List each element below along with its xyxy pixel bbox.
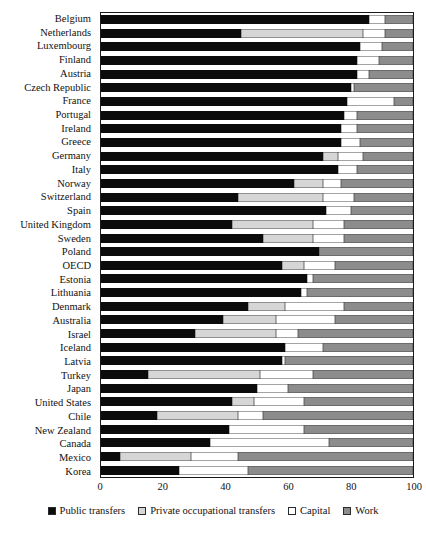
bar-row (101, 124, 413, 133)
y-axis-label: New Zealand (0, 426, 96, 435)
bar-row (101, 111, 413, 120)
legend-item[interactable]: Private occupational transfers (138, 505, 275, 516)
bar-segment-capital (285, 343, 322, 352)
bar-row (101, 425, 413, 434)
legend-item[interactable]: Public transfers (48, 505, 126, 516)
y-axis-label: United States (0, 398, 96, 407)
bar-segment-work (382, 42, 413, 51)
bar-row (101, 370, 413, 379)
bar-rows (101, 13, 413, 477)
bar-row (101, 466, 413, 475)
bar-segment-private (232, 220, 313, 229)
bar-segment-capital (347, 97, 394, 106)
bar-segment-public (101, 193, 238, 202)
y-axis-label: Germany (0, 151, 96, 160)
y-axis-label: Lithuania (0, 288, 96, 297)
bar-row (101, 206, 413, 215)
y-axis-label: Greece (0, 137, 96, 146)
bar-segment-public (101, 466, 179, 475)
bar-segment-work (335, 315, 413, 324)
x-axis-tick-labels: 020406080100 (100, 480, 414, 494)
bar-segment-private (263, 234, 313, 243)
bar-segment-public (101, 206, 326, 215)
bar-segment-public (101, 97, 347, 106)
bar-segment-capital (313, 220, 344, 229)
bar-segment-public (101, 384, 257, 393)
bar-row (101, 165, 413, 174)
x-axis-tick: 0 (97, 480, 102, 494)
bar-segment-public (101, 234, 263, 243)
bar-segment-capital (338, 152, 363, 161)
bar-segment-public (101, 29, 241, 38)
bar-segment-work (263, 411, 413, 420)
y-axis-label: Estonia (0, 275, 96, 284)
bar-segment-public (101, 138, 341, 147)
bar-row (101, 15, 413, 24)
y-axis-label: Canada (0, 439, 96, 448)
bar-segment-public (101, 247, 319, 256)
x-axis-tick: 60 (283, 480, 294, 494)
bar-segment-work (344, 302, 413, 311)
legend-label: Public transfers (60, 505, 126, 516)
bar-row (101, 397, 413, 406)
bar-row (101, 70, 413, 79)
bar-segment-public (101, 356, 282, 365)
y-axis-label: Switzerland (0, 192, 96, 201)
bar-segment-work (369, 70, 413, 79)
bar-segment-public (101, 370, 148, 379)
bar-segment-work (304, 397, 413, 406)
bar-row (101, 438, 413, 447)
bar-segment-work (385, 15, 413, 24)
bar-row (101, 261, 413, 270)
bar-segment-capital (338, 165, 357, 174)
bar-row (101, 247, 413, 256)
y-axis-label: Denmark (0, 302, 96, 311)
y-axis-label: France (0, 96, 96, 105)
bar-segment-private (148, 370, 260, 379)
bar-segment-public (101, 452, 120, 461)
x-axis-tick: 40 (220, 480, 231, 494)
bar-segment-work (344, 234, 413, 243)
bar-segment-work (248, 466, 413, 475)
bar-segment-private (241, 29, 363, 38)
bar-segment-public (101, 397, 232, 406)
bar-segment-capital (313, 234, 344, 243)
bar-segment-work (238, 452, 413, 461)
bar-segment-work (354, 193, 413, 202)
legend-item[interactable]: Work (343, 505, 378, 516)
bar-segment-capital (344, 111, 356, 120)
y-axis-label: Italy (0, 165, 96, 174)
y-axis-label: Poland (0, 247, 96, 256)
y-axis-label: Israel (0, 330, 96, 339)
chart-legend: Public transfersPrivate occupational tra… (0, 505, 426, 516)
bar-row (101, 329, 413, 338)
bar-row (101, 302, 413, 311)
bar-segment-public (101, 438, 210, 447)
y-axis-label: Finland (0, 55, 96, 64)
bar-segment-capital (179, 466, 248, 475)
bar-segment-public (101, 302, 248, 311)
bar-segment-capital (341, 124, 357, 133)
bar-row (101, 343, 413, 352)
bar-segment-public (101, 42, 360, 51)
y-axis-label: Netherlands (0, 28, 96, 37)
bar-segment-public (101, 124, 341, 133)
x-axis-tick: 80 (346, 480, 357, 494)
bar-row (101, 356, 413, 365)
bar-segment-work (319, 247, 413, 256)
bar-segment-capital (276, 329, 298, 338)
y-axis-label: Ireland (0, 124, 96, 133)
bar-segment-capital (285, 302, 344, 311)
bar-segment-public (101, 220, 232, 229)
bar-segment-work (357, 111, 413, 120)
stacked-bar-chart: BelgiumNetherlandsLuxembourgFinlandAustr… (0, 0, 426, 535)
legend-item[interactable]: Capital (288, 505, 330, 516)
bar-row (101, 138, 413, 147)
bar-segment-private (157, 411, 238, 420)
y-axis-label: Portugal (0, 110, 96, 119)
bar-segment-public (101, 83, 351, 92)
bar-segment-public (101, 111, 344, 120)
bar-segment-private (223, 315, 276, 324)
legend-swatch-capital-icon (288, 507, 296, 515)
bar-segment-work (307, 288, 413, 297)
